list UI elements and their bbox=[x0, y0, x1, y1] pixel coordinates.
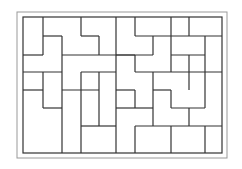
tiling-puzzle-grid bbox=[0, 0, 242, 169]
puzzle-diagram bbox=[0, 0, 242, 169]
inner-frame bbox=[23, 17, 222, 153]
outer-frame bbox=[17, 12, 227, 158]
